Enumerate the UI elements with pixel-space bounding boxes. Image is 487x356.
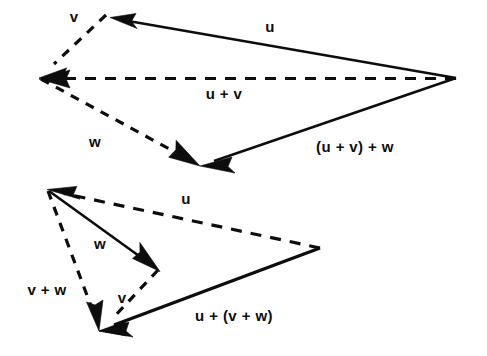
top-vector-w: [41, 79, 202, 166]
bottom-label-v: v: [118, 289, 127, 306]
top-vector-w-shaft: [41, 79, 184, 157]
top-label-v: v: [70, 8, 79, 25]
bottom-vector-v-plus-w-arrowhead: [87, 300, 104, 331]
bottom-vector-w: [49, 191, 164, 272]
bottom-label-w: w: [93, 235, 106, 252]
bottom-label-result: u + (v + w): [195, 307, 273, 324]
vector-diagram-figure: v u u + v w (u + v) + w: [0, 0, 487, 356]
bottom-label-v-plus-w: v + w: [27, 281, 66, 298]
top-label-result: (u + v) + w: [316, 138, 394, 155]
bottom-vector-w-arrowhead: [131, 242, 163, 272]
top-vector-u: [110, 14, 456, 79]
top-label-u-plus-v: u + v: [206, 85, 243, 102]
top-label-u: u: [265, 18, 275, 35]
top-vector-u-shaft: [124, 20, 456, 78]
top-figure-group: v u u + v w (u + v) + w: [39, 8, 456, 173]
top-label-w: w: [88, 133, 101, 150]
top-vector-v-shaft: [54, 15, 106, 64]
bottom-label-u: u: [181, 190, 191, 207]
top-vector-v: [39, 15, 106, 82]
bottom-vector-v: [99, 270, 158, 336]
top-vector-w-arrowhead: [168, 140, 202, 166]
vector-diagram-canvas: v u u + v w (u + v) + w: [0, 0, 487, 356]
bottom-figure-group: u w v v + w u + (v + w): [27, 186, 320, 337]
top-vector-u-plus-v: [39, 70, 456, 88]
bottom-vector-v-plus-w: [48, 191, 103, 331]
